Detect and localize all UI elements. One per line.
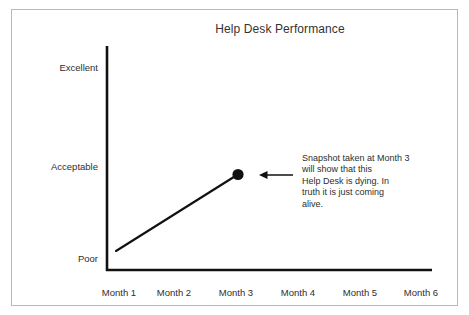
annotation-line-1: Snapshot taken at Month 3 (302, 153, 418, 164)
x-axis-tick-month-2: Month 2 (147, 287, 201, 298)
snapshot-annotation: Snapshot taken at Month 3 will show that… (302, 153, 418, 210)
left-arrow-icon (259, 171, 293, 179)
x-axis-tick-month-6: Month 6 (394, 287, 448, 298)
performance-trend-line (116, 175, 237, 251)
data-point-month-3[interactable] (232, 169, 243, 180)
annotation-line-4: truth it is just coming (302, 187, 418, 198)
y-axis-tick-excellent: Excellent (10, 62, 98, 73)
annotation-line-2: will show that this (302, 164, 418, 175)
x-axis-tick-month-5: Month 5 (333, 287, 387, 298)
help-desk-performance-figure: Help Desk Performance Excellent Acceptab… (0, 0, 469, 315)
y-axis-tick-poor: Poor (10, 253, 98, 264)
x-axis-tick-month-4: Month 4 (271, 287, 325, 298)
annotation-line-5: alive. (302, 199, 418, 210)
x-axis-tick-month-3: Month 3 (209, 287, 263, 298)
annotation-line-3: Help Desk is dying. In (302, 176, 418, 187)
y-axis-tick-acceptable: Acceptable (10, 161, 98, 172)
x-axis-tick-month-1: Month 1 (92, 287, 146, 298)
